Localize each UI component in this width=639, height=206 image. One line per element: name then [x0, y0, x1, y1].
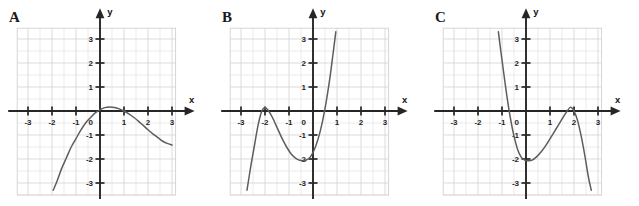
y-tick-label: 3: [302, 35, 307, 44]
x-axis-arrowhead: [185, 107, 195, 116]
x-tick-label: -2: [261, 118, 269, 127]
y-tick-label: 1: [89, 83, 94, 92]
y-tick-label: 1: [302, 83, 307, 92]
y-tick-label: 1: [515, 83, 520, 92]
panel-a: A -3-2-1123321-1-2-30xy: [0, 0, 213, 206]
tick-labels-b: -3-2-1123321-1-2-30xy: [237, 6, 408, 188]
x-axis-label: x: [189, 94, 195, 105]
x-tick-label: 2: [146, 118, 151, 127]
y-axis-arrowhead: [309, 8, 318, 18]
y-axis-label: y: [320, 6, 326, 17]
tick-labels-a: -3-2-1123321-1-2-30xy: [24, 6, 195, 188]
x-tick-label: 1: [122, 118, 127, 127]
origin-label: 0: [302, 118, 307, 127]
x-tick-label: 2: [359, 118, 364, 127]
axes-c: [434, 8, 620, 199]
x-axis-arrowhead: [398, 107, 408, 116]
y-tick-label: 2: [89, 59, 94, 68]
tick-labels-c: -3-2-1123321-1-2-30xy: [450, 6, 621, 188]
coordinate-plane-b: -3-2-1123321-1-2-30xy: [213, 0, 426, 206]
y-tick-label: 3: [515, 35, 520, 44]
axes-b: [221, 8, 407, 199]
x-tick-label: -1: [285, 118, 293, 127]
y-tick-label: -1: [86, 131, 94, 140]
x-tick-label: 2: [572, 118, 577, 127]
curve-a: [53, 107, 172, 190]
y-tick-label: 2: [302, 59, 307, 68]
x-tick-label: 3: [596, 118, 601, 127]
y-tick-label: -3: [512, 179, 520, 188]
x-tick-label: -1: [72, 118, 80, 127]
x-axis-label: x: [402, 94, 408, 105]
y-tick-label: 2: [515, 59, 520, 68]
y-tick-label: -1: [299, 131, 307, 140]
x-axis-label: x: [615, 94, 621, 105]
panel-b-plot: -3-2-1123321-1-2-30xy: [213, 0, 426, 206]
x-tick-label: 1: [335, 118, 340, 127]
x-tick-label: 3: [383, 118, 388, 127]
x-tick-label: -2: [48, 118, 56, 127]
y-axis-label: y: [107, 6, 113, 17]
x-tick-label: -3: [24, 118, 32, 127]
x-tick-label: -2: [474, 118, 482, 127]
y-tick-label: -2: [86, 155, 94, 164]
x-tick-label: -3: [237, 118, 245, 127]
origin-label: 0: [515, 118, 520, 127]
y-tick-label: 3: [89, 35, 94, 44]
panel-c: C -3-2-1123321-1-2-30xy: [426, 0, 639, 206]
x-tick-label: 1: [548, 118, 553, 127]
coordinate-plane-c: -3-2-1123321-1-2-30xy: [426, 0, 639, 206]
panel-b: B -3-2-1123321-1-2-30xy: [213, 0, 426, 206]
y-axis-arrowhead: [522, 8, 531, 18]
y-tick-label: -3: [299, 179, 307, 188]
x-tick-label: -3: [450, 118, 458, 127]
y-axis-label: y: [533, 6, 539, 17]
panel-c-plot: -3-2-1123321-1-2-30xy: [426, 0, 639, 206]
y-axis-arrowhead: [96, 8, 105, 18]
figure-sheet: A -3-2-1123321-1-2-30xy B -3-2-1123321-1…: [0, 0, 639, 206]
x-tick-label: 3: [170, 118, 175, 127]
panel-a-plot: -3-2-1123321-1-2-30xy: [0, 0, 213, 206]
y-tick-label: -2: [512, 155, 520, 164]
x-tick-label: -1: [498, 118, 506, 127]
axes-a: [8, 8, 194, 199]
x-axis-arrowhead: [611, 107, 621, 116]
y-tick-label: -3: [86, 179, 94, 188]
coordinate-plane-a: -3-2-1123321-1-2-30xy: [0, 0, 213, 206]
